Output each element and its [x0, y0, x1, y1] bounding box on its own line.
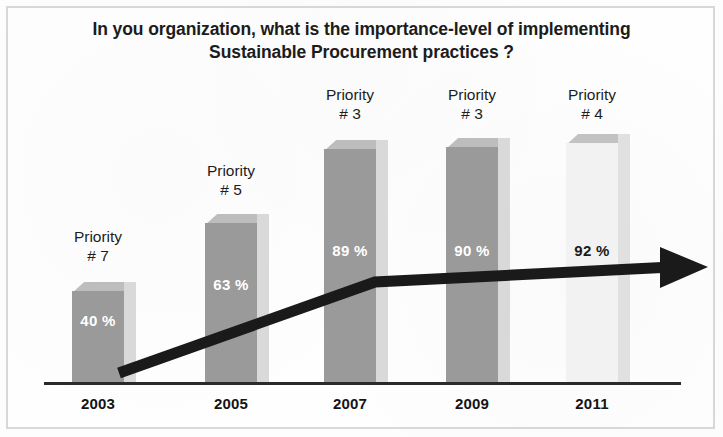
- year-label-2005: 2005: [191, 395, 271, 412]
- priority-label-2009-line1: Priority: [448, 86, 496, 103]
- year-label-2009: 2009: [432, 395, 512, 412]
- priority-label-2003-line1: Priority: [74, 228, 122, 245]
- bar-side-face-2011: [618, 134, 630, 383]
- priority-label-2007-line2: # 3: [310, 105, 390, 124]
- priority-label-2005-line2: # 5: [191, 181, 271, 200]
- priority-label-2005: Priority # 5: [191, 162, 271, 200]
- plot-area: Priority # 7 40 % 2003 Priority # 5 63 %…: [0, 0, 723, 437]
- year-label-2007: 2007: [310, 395, 390, 412]
- bar-side-face-2009: [498, 138, 510, 383]
- value-label-2003: 40 %: [72, 312, 124, 329]
- priority-label-2007: Priority # 3: [310, 86, 390, 124]
- chart-screenshot: In you organization, what is the importa…: [0, 0, 723, 437]
- value-label-2007: 89 %: [324, 242, 376, 259]
- priority-label-2009-line2: # 3: [432, 105, 512, 124]
- priority-label-2003-line2: # 7: [58, 247, 138, 266]
- priority-label-2009: Priority # 3: [432, 86, 512, 124]
- x-axis-line: [44, 382, 681, 385]
- trend-arrow-head: [660, 247, 708, 288]
- bar-front-face-2009[interactable]: 90 %: [446, 147, 498, 383]
- priority-label-2011: Priority # 4: [552, 86, 632, 124]
- bar-front-face-2003[interactable]: 40 %: [72, 291, 124, 383]
- priority-label-2003: Priority # 7: [58, 228, 138, 266]
- value-label-2011: 92 %: [566, 242, 618, 259]
- bar-front-face-2005[interactable]: 63 %: [205, 223, 257, 383]
- priority-label-2011-line1: Priority: [568, 86, 616, 103]
- year-label-2003: 2003: [58, 395, 138, 412]
- bar-side-face-2005: [257, 214, 269, 383]
- year-label-2011: 2011: [552, 395, 632, 412]
- priority-label-2005-line1: Priority: [207, 162, 255, 179]
- bar-front-face-2011[interactable]: 92 %: [566, 143, 618, 383]
- value-label-2009: 90 %: [446, 242, 498, 259]
- bar-front-face-2007[interactable]: 89 %: [324, 149, 376, 383]
- value-label-2005: 63 %: [205, 276, 257, 293]
- priority-label-2011-line2: # 4: [552, 105, 632, 124]
- bar-side-face-2003: [124, 282, 136, 383]
- priority-label-2007-line1: Priority: [326, 86, 374, 103]
- bar-side-face-2007: [376, 140, 388, 383]
